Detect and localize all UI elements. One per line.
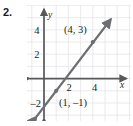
data-point-1-neg1 <box>54 89 58 93</box>
data-point-4-3 <box>91 40 95 44</box>
problem-number-label: 2. <box>3 6 12 18</box>
coordinate-plane: 4 2 –2 2 4 y x (4, 3) (1, –1) <box>27 5 131 121</box>
y-axis-label: y <box>47 10 53 20</box>
y-tick-label-neg2: –2 <box>30 98 42 109</box>
x-tick-label-2: 2 <box>66 82 71 93</box>
point-label-4-3: (4, 3) <box>64 24 87 36</box>
y-tick-label-2: 2 <box>34 49 39 60</box>
y-tick-label-4: 4 <box>34 25 40 36</box>
x-axis-label: x <box>119 80 125 90</box>
point-label-1-neg1: (1, –1) <box>59 97 87 109</box>
coordinate-plane-svg: 4 2 –2 2 4 y x (4, 3) (1, –1) <box>27 5 131 121</box>
graph-figure: 2. <box>0 0 133 126</box>
x-tick-label-4: 4 <box>92 82 98 93</box>
